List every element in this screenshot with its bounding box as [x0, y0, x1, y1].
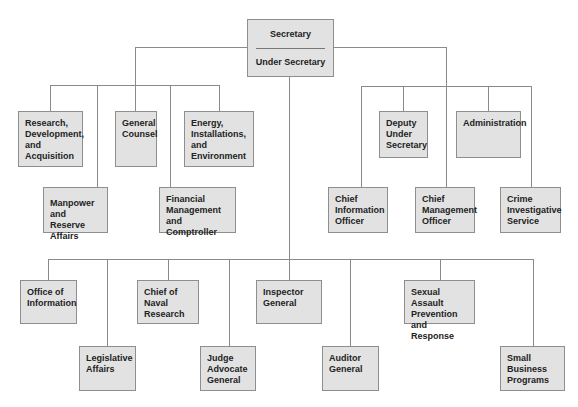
secretary-box: Secretary Under Secretary	[247, 19, 334, 77]
connector	[107, 259, 108, 346]
connector	[50, 85, 51, 111]
small-business-box: Small Business Programs	[500, 346, 565, 391]
connector	[333, 47, 447, 48]
sexual-assault-box: Sexual Assault Prevention and Response	[404, 280, 475, 324]
connector	[446, 86, 447, 187]
legislative-affairs-box: Legislative Affairs	[79, 346, 136, 391]
crime-investigative-box: Crime Investigative Service	[500, 187, 561, 233]
financial-box: Financial Management and Comptroller	[159, 187, 236, 233]
energy-box: Energy, Installations, and Environment	[184, 111, 254, 167]
under-secretary-label: Under Secretary	[248, 57, 333, 67]
connector	[446, 47, 447, 86]
deputy-under-secretary-box: Deputy Under Secretary	[379, 111, 428, 158]
office-of-information-box: Office of Information	[20, 280, 77, 324]
cio-box: Chief Information Officer	[328, 187, 388, 233]
rda-box: Research, Development, and Acquisition	[18, 111, 83, 167]
auditor-general-box: Auditor General	[322, 346, 379, 391]
secretary-label: Secretary	[248, 29, 333, 39]
connector	[135, 85, 136, 111]
connector	[219, 85, 220, 111]
manpower-box: Manpower and Reserve Affairs	[43, 187, 108, 233]
administration-box: Administration	[456, 111, 521, 158]
connector	[440, 259, 441, 280]
connector	[48, 259, 49, 280]
connector	[403, 86, 404, 111]
connector	[289, 76, 290, 259]
chief-naval-research-box: Chief of Naval Research	[137, 280, 199, 324]
connector	[533, 259, 534, 346]
connector	[229, 259, 230, 346]
connector	[48, 259, 534, 260]
connector	[168, 259, 169, 280]
connector	[97, 85, 98, 187]
general-counsel-box: General Counsel	[115, 111, 157, 167]
inspector-general-box: Inspector General	[256, 280, 322, 324]
connector	[488, 86, 489, 111]
connector	[170, 85, 171, 187]
org-chart: Secretary Under Secretary Research, Deve…	[0, 0, 578, 407]
connector	[289, 259, 290, 280]
connector	[531, 86, 532, 187]
connector	[135, 47, 247, 48]
root-divider	[256, 48, 325, 49]
connector	[361, 86, 362, 187]
cmo-box: Chief Management Officer	[415, 187, 475, 233]
connector	[350, 259, 351, 346]
connector	[135, 47, 136, 85]
judge-advocate-general-box: Judge Advocate General	[200, 346, 256, 391]
